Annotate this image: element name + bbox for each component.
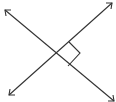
perpendicular-lines-diagram	[0, 0, 116, 102]
line-b	[9, 3, 112, 95]
line-a	[5, 10, 114, 101]
right-angle-marker	[68, 42, 80, 66]
